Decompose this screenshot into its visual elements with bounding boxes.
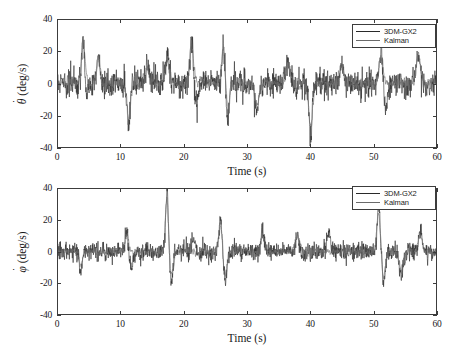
x-tick-mark bbox=[374, 19, 375, 23]
x-tick-mark bbox=[437, 144, 438, 148]
x-tick-label: 0 bbox=[55, 319, 60, 329]
y-tick-mark bbox=[57, 116, 61, 117]
x-tick-mark bbox=[120, 311, 121, 315]
y-tick-label: 20 bbox=[43, 46, 52, 56]
y-tick-mark bbox=[57, 84, 61, 85]
x-tick-mark bbox=[57, 19, 58, 23]
y-tick-mark bbox=[433, 84, 437, 85]
y-tick-mark bbox=[57, 148, 61, 149]
y-tick-mark bbox=[57, 51, 61, 52]
subplot-phi-dot: -40-2002040 0102030405060 3DM-GX2 Kalman bbox=[57, 188, 437, 315]
legend-row-sensor: 3DM-GX2 bbox=[356, 189, 432, 198]
legend-line-kalman-icon bbox=[356, 40, 380, 41]
x-tick-mark bbox=[247, 311, 248, 315]
x-tick-label: 30 bbox=[242, 152, 251, 162]
x-tick-label: 10 bbox=[116, 319, 125, 329]
x-tick-mark bbox=[310, 19, 311, 23]
x-tick-mark bbox=[310, 144, 311, 148]
x-tick-mark bbox=[437, 188, 438, 192]
y-tick-label: 40 bbox=[43, 14, 52, 24]
x-tick-mark bbox=[120, 144, 121, 148]
x-tick-mark bbox=[184, 311, 185, 315]
x-tick-mark bbox=[374, 144, 375, 148]
subplot-theta-dot: -40-2002040 0102030405060 3DM-GX2 Kalman bbox=[57, 19, 437, 148]
x-axis-title-theta-dot: Time (s) bbox=[228, 165, 267, 177]
x-tick-label: 50 bbox=[369, 152, 378, 162]
legend-line-kalman-icon bbox=[356, 202, 380, 203]
legend-phi-dot: 3DM-GX2 Kalman bbox=[352, 186, 436, 210]
y-tick-label: 40 bbox=[43, 183, 52, 193]
legend-label-kalman: Kalman bbox=[384, 198, 409, 207]
y-tick-label: 0 bbox=[47, 79, 52, 89]
x-tick-label: 20 bbox=[179, 319, 188, 329]
y-tick-mark bbox=[433, 252, 437, 253]
x-tick-mark bbox=[184, 188, 185, 192]
y-tick-mark bbox=[57, 283, 61, 284]
phi-symbol: φ̇ bbox=[16, 266, 28, 272]
y-tick-label: -20 bbox=[40, 111, 52, 121]
x-tick-label: 10 bbox=[116, 152, 125, 162]
x-tick-mark bbox=[184, 144, 185, 148]
legend-line-sensor-icon bbox=[356, 193, 380, 194]
x-tick-mark bbox=[247, 19, 248, 23]
x-tick-label: 40 bbox=[306, 152, 315, 162]
x-tick-mark bbox=[437, 19, 438, 23]
x-tick-label: 20 bbox=[179, 152, 188, 162]
theta-symbol: θ̇ bbox=[16, 99, 28, 105]
legend-line-sensor-icon bbox=[356, 31, 380, 32]
y-tick-label: -40 bbox=[40, 310, 52, 320]
x-tick-mark bbox=[310, 311, 311, 315]
x-tick-mark bbox=[247, 144, 248, 148]
x-tick-mark bbox=[374, 311, 375, 315]
y-axis-title-theta-dot: θ̇ (deg/s) bbox=[16, 64, 28, 104]
y-tick-label: 20 bbox=[43, 215, 52, 225]
legend-label-sensor: 3DM-GX2 bbox=[384, 27, 417, 36]
y-axis-units-phi: (deg/s) bbox=[16, 231, 28, 263]
legend-theta-dot: 3DM-GX2 Kalman bbox=[352, 24, 436, 48]
y-tick-mark bbox=[57, 252, 61, 253]
legend-label-sensor: 3DM-GX2 bbox=[384, 189, 417, 198]
x-tick-mark bbox=[247, 188, 248, 192]
y-tick-mark bbox=[433, 116, 437, 117]
y-tick-label: -20 bbox=[40, 278, 52, 288]
x-tick-label: 30 bbox=[242, 319, 251, 329]
y-tick-mark bbox=[57, 220, 61, 221]
figure-canvas: -40-2002040 0102030405060 3DM-GX2 Kalman… bbox=[0, 0, 462, 350]
legend-label-kalman: Kalman bbox=[384, 36, 409, 45]
y-tick-label: -40 bbox=[40, 143, 52, 153]
y-tick-mark bbox=[57, 315, 61, 316]
x-tick-mark bbox=[57, 144, 58, 148]
x-tick-label: 60 bbox=[432, 152, 441, 162]
legend-row-kalman: Kalman bbox=[356, 36, 432, 45]
y-tick-mark bbox=[433, 148, 437, 149]
legend-row-kalman: Kalman bbox=[356, 198, 432, 207]
y-tick-mark bbox=[433, 220, 437, 221]
x-tick-label: 0 bbox=[55, 152, 60, 162]
x-tick-mark bbox=[57, 311, 58, 315]
y-axis-title-phi-dot: φ̇ (deg/s) bbox=[16, 231, 28, 272]
x-tick-mark bbox=[437, 311, 438, 315]
y-tick-label: 0 bbox=[47, 247, 52, 257]
x-tick-label: 40 bbox=[306, 319, 315, 329]
y-tick-mark bbox=[433, 283, 437, 284]
x-tick-mark bbox=[57, 188, 58, 192]
x-tick-mark bbox=[184, 19, 185, 23]
y-tick-mark bbox=[433, 51, 437, 52]
y-axis-units-theta: (deg/s) bbox=[16, 64, 28, 96]
legend-row-sensor: 3DM-GX2 bbox=[356, 27, 432, 36]
x-tick-label: 60 bbox=[432, 319, 441, 329]
x-axis-title-phi-dot: Time (s) bbox=[228, 332, 267, 344]
x-tick-mark bbox=[310, 188, 311, 192]
y-tick-mark bbox=[433, 315, 437, 316]
x-tick-mark bbox=[120, 19, 121, 23]
x-tick-label: 50 bbox=[369, 319, 378, 329]
x-tick-mark bbox=[120, 188, 121, 192]
